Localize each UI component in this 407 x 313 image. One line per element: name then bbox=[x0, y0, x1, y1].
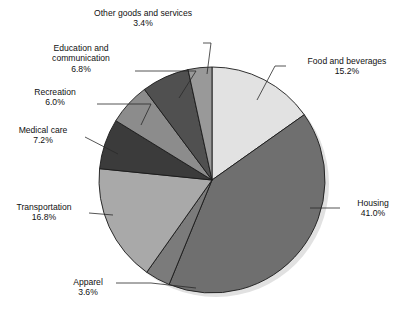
label-apparel-value: 3.6% bbox=[62, 287, 114, 297]
label-education-and-communication-name-line1: Education and bbox=[28, 43, 134, 53]
label-medical-care-value: 7.2% bbox=[4, 135, 82, 145]
label-recreation-name: Recreation bbox=[16, 87, 94, 97]
label-education-and-communication-value: 6.8% bbox=[28, 64, 134, 74]
label-food-and-beverages-value: 15.2% bbox=[291, 66, 403, 76]
label-other-goods-and-services-value: 3.4% bbox=[62, 18, 224, 28]
label-transportation-name: Transportation bbox=[2, 202, 86, 212]
label-other-goods-and-services-name: Other goods and services bbox=[62, 8, 224, 18]
label-education-and-communication-name-line2: communication bbox=[28, 53, 134, 63]
label-other-goods-and-services: Other goods and services 3.4% bbox=[62, 8, 224, 29]
label-recreation-value: 6.0% bbox=[16, 97, 94, 107]
pie-chart-page: Other goods and services 3.4% Education … bbox=[0, 0, 407, 313]
pie-slices-group bbox=[99, 67, 325, 293]
label-food-and-beverages-name: Food and beverages bbox=[291, 56, 403, 66]
label-education-and-communication: Education and communication 6.8% bbox=[28, 43, 134, 74]
label-housing-name: Housing bbox=[344, 198, 402, 208]
label-housing: Housing 41.0% bbox=[344, 198, 402, 219]
label-recreation: Recreation 6.0% bbox=[16, 87, 94, 108]
label-apparel-name: Apparel bbox=[62, 277, 114, 287]
label-medical-care-name: Medical care bbox=[4, 125, 82, 135]
label-apparel: Apparel 3.6% bbox=[62, 277, 114, 298]
label-medical-care: Medical care 7.2% bbox=[4, 125, 82, 146]
label-food-and-beverages: Food and beverages 15.2% bbox=[291, 56, 403, 77]
label-transportation-value: 16.8% bbox=[2, 212, 86, 222]
label-housing-value: 41.0% bbox=[344, 208, 402, 218]
label-transportation: Transportation 16.8% bbox=[2, 202, 86, 223]
